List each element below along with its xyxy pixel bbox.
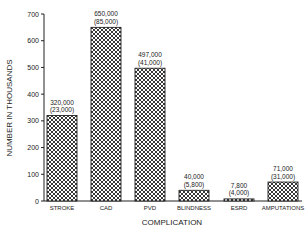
bar-secondary-label: (23,000) xyxy=(50,106,74,114)
y-tick-label: 400 xyxy=(27,91,39,98)
bar-blindness: 40,000(5,800)BLINDNESS xyxy=(177,173,211,211)
bar-value-label: 71,000 xyxy=(273,165,293,172)
bar-secondary-label: (31,000) xyxy=(271,173,295,181)
bar-pvd: 497,000(41,000)PVD xyxy=(135,51,165,211)
y-axis-title: NUMBER IN THOUSANDS xyxy=(5,59,14,156)
y-tick-label: 100 xyxy=(27,171,39,178)
bar-chart: 0100200300400500600700 320,000(23,000)ST… xyxy=(0,0,308,232)
bar-value-label: 7,800 xyxy=(231,182,248,189)
bar-secondary-label: (4,000) xyxy=(229,189,250,197)
bar-value-label: 497,000 xyxy=(138,51,162,58)
y-tick-label: 500 xyxy=(27,64,39,71)
x-axis-title: COMPLICATION xyxy=(142,218,203,227)
y-axis: 0100200300400500600700 xyxy=(27,11,44,205)
bar-cad: 650,000(85,000)CAD xyxy=(91,10,121,211)
x-tick-label: ESRD xyxy=(231,205,248,211)
bars: 320,000(23,000)STROKE650,000(85,000)CAD4… xyxy=(47,10,304,211)
bar-stroke: 320,000(23,000)STROKE xyxy=(47,99,77,211)
y-tick-label: 0 xyxy=(35,198,39,205)
bar-esrd: 7,800(4,000)ESRD xyxy=(224,182,254,211)
bar-value-label: 320,000 xyxy=(50,99,74,106)
x-tick-label: STROKE xyxy=(50,205,75,211)
bar-value-label: 650,000 xyxy=(94,10,118,17)
x-tick-label: PVD xyxy=(144,205,157,211)
x-tick-label: BLINDNESS xyxy=(177,205,211,211)
bar-secondary-label: (5,800) xyxy=(184,181,205,189)
bar-secondary-label: (85,000) xyxy=(94,18,118,26)
x-tick-label: AMPUTATIONS xyxy=(262,205,304,211)
bar-amputations: 71,000(31,000)AMPUTATIONS xyxy=(262,165,304,211)
bar-secondary-label: (41,000) xyxy=(138,59,162,67)
y-tick-label: 200 xyxy=(27,144,39,151)
x-tick-label: CAD xyxy=(100,205,113,211)
y-tick-label: 700 xyxy=(27,11,39,18)
y-tick-label: 600 xyxy=(27,37,39,44)
y-tick-label: 300 xyxy=(27,117,39,124)
bar-value-label: 40,000 xyxy=(184,173,204,180)
